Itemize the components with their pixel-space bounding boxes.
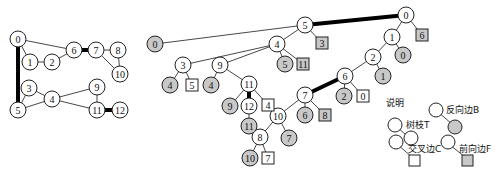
nodes-layer: 0126781034591112061021620768107810750345… xyxy=(10,7,428,166)
graph-node: 4 xyxy=(44,91,60,107)
node-label: 5 xyxy=(190,80,195,91)
graph-node: 9 xyxy=(89,79,105,95)
graph-node-label: 7 xyxy=(94,45,99,56)
forward-edge-square: 3 xyxy=(316,37,328,49)
node-label: 7 xyxy=(287,133,292,144)
cross-edge-square: 7 xyxy=(262,152,274,164)
graph-node: 11 xyxy=(89,102,105,118)
node-label: 11 xyxy=(244,79,254,90)
tree-node: 6 xyxy=(337,68,353,84)
graph-node: 12 xyxy=(112,102,128,118)
back-edge-node: 2 xyxy=(336,88,352,104)
tree-edge xyxy=(305,15,406,25)
node-label: 0 xyxy=(153,39,158,50)
graph-node-label: 5 xyxy=(16,105,21,116)
legend-forward-node xyxy=(441,135,455,149)
back-edge-node: 7 xyxy=(281,130,297,146)
tree-node: 3 xyxy=(175,57,191,73)
tree-node: 11 xyxy=(241,76,257,92)
node-label: 1 xyxy=(381,71,386,82)
graph-node-label: 2 xyxy=(50,57,55,68)
back-edge-node: 0 xyxy=(147,36,163,52)
legend-tree-node-a xyxy=(388,118,402,132)
graph-node-label: 8 xyxy=(116,45,121,56)
graph-node-label: 11 xyxy=(92,105,102,116)
tree-node: 5 xyxy=(297,17,313,33)
graph-node: 8 xyxy=(110,42,126,58)
node-label: 4 xyxy=(209,80,214,91)
legend-cross-square xyxy=(409,155,420,166)
back-edge-node: 11 xyxy=(241,118,257,134)
back-edge-node: 10 xyxy=(242,150,258,166)
diagram-canvas: 0126781034591112061021620768107810750345… xyxy=(0,0,504,182)
tree-node: 1 xyxy=(384,29,400,45)
graph-node: 1 xyxy=(22,54,38,70)
back-edge-node: 6 xyxy=(297,107,313,123)
tree-node: 4 xyxy=(269,36,285,52)
graph-node: 5 xyxy=(10,102,26,118)
graph-node: 6 xyxy=(66,42,82,58)
graph-node: 2 xyxy=(44,54,60,70)
graph-node: 0 xyxy=(10,31,26,47)
legend-back-node-b xyxy=(448,120,462,134)
graph-node-label: 10 xyxy=(115,69,125,80)
legend: 说明 树枝T 反向边B 交叉边C 前向边F xyxy=(386,97,491,166)
graph-node-label: 4 xyxy=(50,94,55,105)
node-label: 0 xyxy=(401,50,406,61)
edges-layer xyxy=(18,15,422,158)
legend-tree-edge-label: 树枝T xyxy=(406,119,430,130)
forward-edge-square: 6 xyxy=(416,29,428,41)
legend-cross-node xyxy=(389,135,403,149)
node-label: 4 xyxy=(168,80,173,91)
legend-back-node-a xyxy=(429,103,443,117)
node-label: 7 xyxy=(266,153,271,164)
node-label: 12 xyxy=(244,101,254,112)
back-edge-node: 1 xyxy=(375,68,391,84)
back-edge-node: 5 xyxy=(277,56,293,72)
graph-node-label: 9 xyxy=(95,82,100,93)
graph-node-label: 12 xyxy=(115,105,125,116)
node-label: 6 xyxy=(303,110,308,121)
tree-edge xyxy=(183,44,277,65)
legend-forward-square xyxy=(462,155,473,166)
cross-edge-square: 0 xyxy=(357,90,369,102)
node-label: 0 xyxy=(404,10,409,21)
node-label: 9 xyxy=(228,101,233,112)
graph-edge xyxy=(18,39,74,50)
node-label: 11 xyxy=(244,121,254,132)
node-label: 4 xyxy=(275,39,280,50)
back-edge-node: 0 xyxy=(395,47,411,63)
node-label: 1 xyxy=(390,32,395,43)
graph-node-label: 1 xyxy=(28,57,33,68)
tree-node: 9 xyxy=(212,57,228,73)
legend-back-edge-label: 反向边B xyxy=(446,104,479,115)
node-label: 11 xyxy=(298,59,308,70)
node-label: 3 xyxy=(181,60,186,71)
node-label: 6 xyxy=(420,30,425,41)
node-label: 8 xyxy=(323,110,328,121)
cross-edge-square: 5 xyxy=(186,79,198,91)
legend-cross-edge-label: 交叉边C xyxy=(408,143,441,154)
graph-node: 7 xyxy=(88,42,104,58)
node-label: 2 xyxy=(371,52,376,63)
node-label: 5 xyxy=(283,59,288,70)
graph-node: 3 xyxy=(21,80,37,96)
node-label: 7 xyxy=(303,90,308,101)
tree-node: 7 xyxy=(297,87,313,103)
node-label: 10 xyxy=(245,153,255,164)
graph-node-label: 3 xyxy=(27,83,32,94)
forward-edge-square: 8 xyxy=(319,109,331,121)
legend-forward-edge-label: 前向边F xyxy=(459,143,491,154)
node-label: 0 xyxy=(361,91,366,102)
node-label: 8 xyxy=(258,132,263,143)
legend-tree-node-b xyxy=(404,131,418,145)
back-edge-node: 9 xyxy=(222,98,238,114)
node-label: 5 xyxy=(303,20,308,31)
legend-title: 说明 xyxy=(386,97,404,108)
graph-node-label: 6 xyxy=(72,45,77,56)
tree-node: 0 xyxy=(398,7,414,23)
graph-node-label: 0 xyxy=(16,34,21,45)
node-label: 2 xyxy=(342,91,347,102)
node-label: 6 xyxy=(343,71,348,82)
node-label: 10 xyxy=(273,111,283,122)
